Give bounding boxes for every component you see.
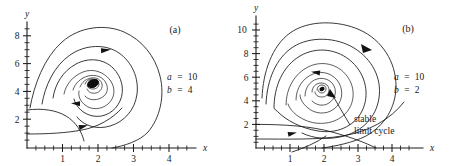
- panel-b-param-a-value: 10: [415, 72, 425, 82]
- panel-a-param-a-equals: =: [177, 72, 182, 82]
- panel-a: 2 4 6 8 1 2 3 4 y x (a): [0, 0, 226, 166]
- panel-b: 2 4 6 8 10 1 2 3 4 y x (b): [226, 0, 453, 166]
- phase-portrait-figure: 2 4 6 8 1 2 3 4 y x (a): [0, 0, 453, 166]
- panel-b-param-b-name: b: [394, 85, 399, 95]
- panel-a-param-a-name: a: [167, 72, 172, 82]
- panel-a-tag: (a): [169, 24, 180, 36]
- panel-a-param-b-name: b: [167, 85, 172, 95]
- panel-a-ytick-label-6: 6: [15, 59, 20, 69]
- panel-a-plot: 2 4 6 8 1 2 3 4 y x (a): [0, 0, 226, 166]
- panel-b-param-a-name: a: [394, 72, 399, 82]
- unstable-focus-point: [319, 86, 325, 92]
- panel-a-param-b: b = 4: [167, 85, 193, 95]
- panel-b-param-a: a = 10: [394, 72, 425, 82]
- annotation-arrow-head: [327, 89, 336, 98]
- panel-b-x-axis-label: x: [429, 143, 435, 153]
- trajectory-outer-1: [30, 27, 162, 148]
- panel-b-ytick-label-4: 4: [244, 96, 249, 106]
- panel-a-ytick-label-8: 8: [15, 31, 20, 41]
- panel-a-xtick-label-1: 1: [60, 154, 65, 164]
- panel-a-param-b-value: 4: [188, 85, 193, 95]
- panel-b-xtick-label-4: 4: [390, 154, 395, 164]
- trajectory-outer-4: [64, 70, 114, 108]
- panel-a-y-axis-label: y: [24, 9, 30, 19]
- panel-b-tag: (b): [402, 23, 414, 35]
- trajectory-outer-3: [53, 60, 122, 117]
- panel-a-xtick-label-3: 3: [131, 154, 136, 164]
- panel-a-ytick-label-2: 2: [15, 115, 20, 125]
- trajectory-incoming-lower: [27, 108, 122, 134]
- panel-b-plot: 2 4 6 8 10 1 2 3 4 y x (b): [226, 0, 453, 166]
- panel-b-y-axis-label: y: [253, 3, 259, 13]
- panel-b-xtick-label-2: 2: [322, 154, 327, 164]
- flow-arrow-outer-right: [361, 44, 372, 53]
- panel-b-ytick-label-2: 2: [244, 120, 249, 130]
- panel-b-param-b-value: 2: [415, 85, 420, 95]
- panel-b-xtick-label-3: 3: [356, 154, 361, 164]
- panel-b-ytick-label-8: 8: [244, 49, 249, 59]
- panel-a-param-a-value: 10: [188, 72, 198, 82]
- annotation-line-2: limit cycle: [354, 126, 394, 136]
- panel-a-ytick-label-4: 4: [15, 87, 20, 97]
- panel-a-xtick-label-4: 4: [167, 154, 172, 164]
- panel-a-trajectories: [27, 27, 162, 148]
- panel-a-xtick-label-2: 2: [96, 154, 101, 164]
- trajectory-incoming-upper: [27, 109, 84, 141]
- panel-b-param-b-equals: =: [404, 85, 409, 95]
- flow-arrow-left: [71, 101, 80, 106]
- flow-arrow-bottom-left: [288, 130, 298, 137]
- stable-limit-cycle-annotation: stable limit cycle: [327, 89, 394, 136]
- panel-b-ytick-label-6: 6: [244, 73, 249, 83]
- panel-b-xtick-label-1: 1: [288, 154, 293, 164]
- panel-b-param-a-equals: =: [404, 72, 409, 82]
- panel-a-param-b-equals: =: [177, 85, 182, 95]
- panel-a-x-axis-label: x: [202, 143, 208, 153]
- panel-b-param-b: b = 2: [394, 85, 420, 95]
- panel-b-ytick-label-10: 10: [237, 25, 247, 35]
- panel-a-param-a: a = 10: [167, 72, 198, 82]
- annotation-line-1: stable: [354, 114, 376, 124]
